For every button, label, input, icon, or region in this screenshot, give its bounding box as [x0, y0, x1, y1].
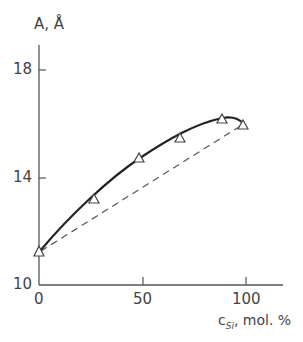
fitted-curve [40, 117, 243, 251]
linear-reference-line [41, 125, 242, 251]
y-axis-label: A, Å [34, 17, 64, 32]
x-axis-label-subscript: Si [226, 321, 234, 331]
triangle-marker [175, 133, 185, 142]
x-axis-label: cSi, mol. % [218, 313, 291, 331]
x-axis-label-units: , mol. % [234, 312, 291, 328]
x-tick-label-0: 0 [34, 292, 44, 307]
y-tick-label-18: 18 [13, 62, 32, 77]
y-tick-label-10: 10 [13, 277, 32, 292]
x-tick-label-50: 50 [133, 292, 152, 307]
y-tick-label-14: 14 [13, 170, 32, 185]
x-axis-label-var: c [218, 312, 226, 328]
x-tick-label-100: 100 [232, 292, 261, 307]
